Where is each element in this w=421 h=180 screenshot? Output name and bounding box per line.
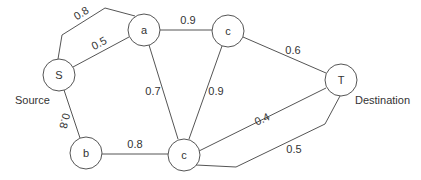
edge-label-s-b: 0.8 xyxy=(57,112,73,130)
node-b: b xyxy=(70,137,102,169)
edge-label-a-c2: 0.7 xyxy=(145,85,160,97)
source-annotation: Source xyxy=(15,94,50,106)
node-label-t: T xyxy=(338,74,345,86)
node-label-c-top: c xyxy=(225,25,231,37)
node-t: T xyxy=(325,64,357,96)
edge-label-c1-t: 0.6 xyxy=(285,44,300,56)
edge-label-c2-t: 0.4 xyxy=(253,110,272,127)
edge-s-a-bent xyxy=(58,8,135,59)
destination-annotation: Destination xyxy=(355,94,410,106)
node-label-c-bottom: c xyxy=(181,149,187,161)
edge-c2-t-bent xyxy=(196,96,340,167)
node-label-s: S xyxy=(55,69,62,81)
edge-label-c2-t-bent: 0.5 xyxy=(286,143,301,155)
edge-label-c1-c2: 0.9 xyxy=(208,85,223,97)
node-label-b: b xyxy=(83,147,89,159)
node-c-bottom: c xyxy=(168,139,200,171)
node-a: a xyxy=(128,14,160,46)
node-label-a: a xyxy=(141,24,148,36)
graph-diagram: 0.8 0.5 0.9 0.6 0.7 0.9 0.8 0.8 0.4 0.5 … xyxy=(0,0,421,180)
edge-labels: 0.8 0.5 0.9 0.6 0.7 0.9 0.8 0.8 0.4 0.5 xyxy=(57,4,301,155)
node-s: S xyxy=(43,59,75,91)
edge-label-a-c1: 0.9 xyxy=(180,14,195,26)
node-c-top: c xyxy=(212,15,244,47)
edge-label-b-c2: 0.8 xyxy=(127,138,142,150)
